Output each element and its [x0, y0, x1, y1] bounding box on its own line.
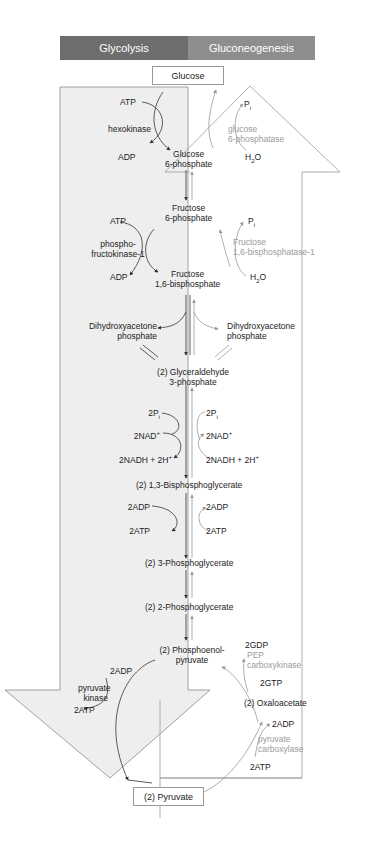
gapdh-pi: 2Pi	[120, 408, 160, 422]
pgk-atp: 2ATP	[110, 526, 150, 536]
oxaloacetate: (2) Oxaloacetate	[244, 698, 307, 708]
pep-carboxykinase-label: PEP carboxykinase	[247, 650, 301, 670]
pk-atp: 2ATP	[74, 705, 95, 715]
3-phosphoglycerate: (2) 3-Phosphoglycerate	[145, 558, 233, 568]
gapdh-nadh: 2NADH + 2H+	[80, 452, 172, 465]
g6pase-pi: Pi	[244, 99, 251, 113]
glyceraldehyde-3-phosphate: (2) Glyceraldehyde 3-phosphate	[150, 367, 236, 387]
pfk-atp: ATP	[110, 216, 126, 226]
fbpase-pi: Pi	[248, 216, 255, 230]
fructose-6-phosphate: Fructose 6-phosphate	[165, 203, 212, 223]
pc-atp: 2ATP	[250, 762, 271, 772]
hk-atp: ATP	[120, 97, 136, 107]
pc-adp: 2ADP	[272, 719, 294, 729]
gluconeo-pgk-adp: 2ADP	[206, 502, 228, 512]
phosphoenolpyruvate: (2) Phosphoenol- pyruvate	[157, 645, 227, 665]
glucose-box: Glucose	[152, 66, 224, 85]
glycolysis-arrow	[5, 87, 210, 778]
pyruvate-box: (2) Pyruvate	[133, 787, 204, 806]
gapdh-nad: 2NAD+	[110, 428, 160, 441]
phosphofructokinase-1-label: phospho- fructokinase-1	[85, 239, 151, 259]
fructose-1-6-bisphosphatase-1-label: Fructose 1,6-bisphosphatase-1	[233, 237, 315, 257]
2-phosphoglycerate: (2) 2-Phosphoglycerate	[145, 602, 233, 612]
gluconeo-gapdh-pi: 2Pi	[206, 408, 218, 422]
pathway-diagram	[0, 0, 380, 860]
pyruvate-kinase-label: pyruvate kinase	[78, 683, 108, 703]
fbpase-water: H2O	[250, 272, 266, 286]
hk-adp: ADP	[118, 152, 135, 162]
dhap-gluconeogenesis: Dihydroxyacetone phosphate	[227, 321, 295, 341]
g6pase-water: H2O	[245, 152, 261, 166]
1-3-bisphosphoglycerate: (2) 1,3-Bisphosphoglycerate	[136, 480, 242, 490]
pgk-adp: 2ADP	[110, 502, 150, 512]
gluconeo-gapdh-nadh: 2NADH + 2H+	[206, 452, 259, 465]
dhap-glycolysis: Dihydroxyacetone phosphate	[63, 321, 157, 341]
glucose-6-phosphate: Glucose 6-phosphate	[165, 149, 212, 169]
glucose-6-phosphatase-label: glucose 6-phosphatase	[228, 124, 284, 144]
pk-adp: 2ADP	[110, 666, 132, 676]
pepck-gdp: 2GDP	[245, 640, 268, 650]
gluconeo-gapdh-nad: 2NAD+	[206, 428, 232, 441]
pyruvate-carboxylase-label: pyruvate carboxylase	[258, 734, 303, 754]
gluconeo-pgk-atp: 2ATP	[206, 526, 227, 536]
pfk-adp: ADP	[110, 272, 127, 282]
fructose-1-6-bisphosphate: Fructose 1,6-bisphosphate	[155, 269, 220, 289]
pepck-gtp: 2GTP	[260, 678, 282, 688]
hexokinase-label: hexokinase	[108, 124, 151, 134]
